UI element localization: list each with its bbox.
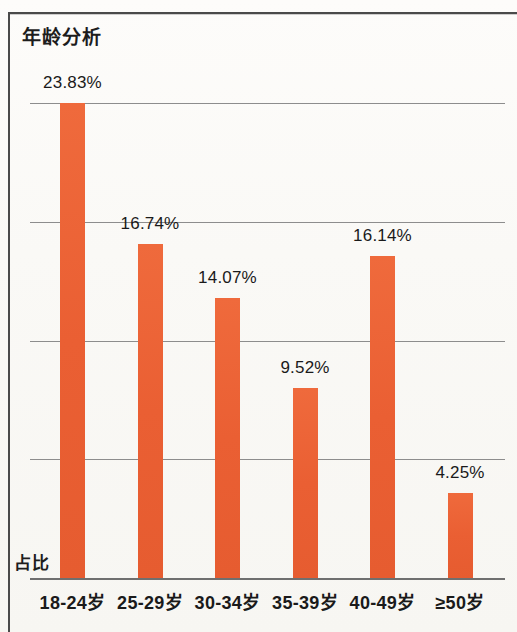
- bar: [293, 388, 318, 578]
- bar-value-label: 9.52%: [280, 358, 329, 378]
- figure-frame-top-shadow: [8, 14, 517, 15]
- x-tick-label: 25-29岁: [117, 588, 183, 614]
- bar: [138, 244, 163, 578]
- bar-value-label: 16.74%: [121, 214, 180, 234]
- bar-value-label: 16.14%: [353, 226, 412, 246]
- x-axis-tick-labels: 18-24岁25-29岁30-34岁35-39岁40-49岁≥50岁: [0, 588, 517, 628]
- bar: [448, 493, 473, 578]
- x-tick-label: 30-34岁: [195, 588, 261, 614]
- x-tick-label: 18-24岁: [40, 588, 106, 614]
- bar: [215, 298, 240, 578]
- figure-frame-left-rule: [8, 12, 10, 632]
- x-tick-label: ≥50岁: [435, 588, 484, 614]
- bar: [370, 256, 395, 578]
- x-tick-label: 35-39岁: [272, 588, 338, 614]
- bar-value-label: 14.07%: [198, 268, 257, 288]
- bar-value-label: 4.25%: [435, 463, 484, 483]
- chart-figure: 年龄分析 23.83%16.74%14.07%9.52%16.14%4.25% …: [0, 0, 517, 632]
- bar: [60, 103, 85, 578]
- x-tick-label: 40-49岁: [350, 588, 416, 614]
- y-axis-label: 占比: [14, 549, 49, 574]
- bar-series: 23.83%16.74%14.07%9.52%16.14%4.25%: [30, 95, 505, 586]
- bar-value-label: 23.83%: [43, 73, 102, 93]
- chart-title: 年龄分析: [22, 22, 102, 49]
